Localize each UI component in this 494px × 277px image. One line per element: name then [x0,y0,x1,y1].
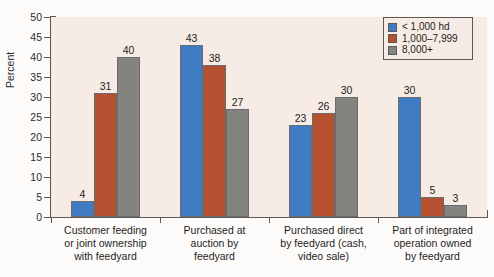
bar [226,109,249,217]
x-axis-tick [160,218,161,223]
x-axis-tick [51,218,52,223]
bar [444,205,467,217]
y-axis-label: 20 [2,132,42,143]
bar [203,65,226,217]
legend-item: 1,000–7,999 [388,33,468,44]
y-axis-label: 45 [2,32,42,43]
x-axis-category-label: Part of integrated operation owned by fe… [378,224,487,262]
y-axis-tick [44,17,50,18]
bar [94,93,117,217]
bar [117,57,140,217]
y-axis-label: 0 [2,212,42,223]
bar [71,201,94,217]
y-axis-tick [44,137,50,138]
y-axis-label: 15 [2,152,42,163]
bar-value-label: 38 [197,53,232,64]
x-axis-category-label: Customer feeding or joint ownership with… [51,224,160,262]
y-axis-label: 40 [2,52,42,63]
x-axis-tick [269,218,270,223]
bar [289,125,312,217]
x-axis-category-label: Purchased at auction by feedyard [160,224,269,262]
legend-swatch-icon [388,34,397,43]
bar [312,113,335,217]
legend-item: < 1,000 hd [388,22,468,33]
bar-value-label: 30 [392,85,427,96]
y-axis-tick [44,197,50,198]
x-axis-tick [378,218,379,223]
bar [180,45,203,217]
x-axis-right-tick [487,210,488,218]
y-axis-tick [44,117,50,118]
y-axis-tick [44,177,50,178]
x-axis-category-label: Purchased direct by feedyard (cash, vide… [269,224,378,262]
bar-value-label: 30 [329,85,364,96]
y-axis-label: 5 [2,192,42,203]
legend-item-label: < 1,000 hd [402,22,450,32]
bar [398,97,421,217]
y-axis-label: 35 [2,72,42,83]
bar-value-label: 43 [174,33,209,44]
y-axis-tick [44,157,50,158]
y-axis-label: 30 [2,92,42,103]
y-axis-label: 25 [2,112,42,123]
legend-swatch-icon [388,46,397,55]
y-axis-tick [44,97,50,98]
y-axis-label: 50 [2,12,42,23]
legend-item: 8,000+ [388,45,468,56]
y-axis-tick [44,37,50,38]
bar-value-label: 3 [438,193,473,204]
bar-value-label: 40 [111,45,146,56]
bar-value-label: 27 [220,97,255,108]
y-axis-tick [44,217,50,218]
legend-item-label: 8,000+ [402,45,433,55]
y-axis-tick [44,77,50,78]
y-axis-tick [44,57,50,58]
legend-swatch-icon [388,23,397,32]
legend-item-label: 1,000–7,999 [402,34,458,44]
bar-chart: Percent 05101520253035404550 43140433827… [0,0,494,277]
y-axis-label: 10 [2,172,42,183]
chart-legend: < 1,000 hd1,000–7,9998,000+ [383,17,473,60]
bar [335,97,358,217]
